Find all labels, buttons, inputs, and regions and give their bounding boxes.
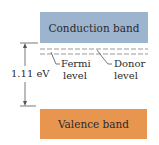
fermi-label-line2: level [63,71,87,81]
arrow-up-icon [23,43,27,48]
valence-band-label: Valence band [58,118,129,130]
fermi-label-line1: Fermi [61,59,91,69]
valence-band: Valence band [40,109,147,139]
donor-label-line2: level [114,71,138,81]
conduction-band-label: Conduction band [49,22,140,34]
donor-leader [97,50,112,64]
donor-label-line1: Donor [114,59,145,69]
conduction-band: Conduction band [40,12,148,43]
gap-label: 1.11 eV [10,69,51,79]
arrow-down-icon [23,101,27,106]
